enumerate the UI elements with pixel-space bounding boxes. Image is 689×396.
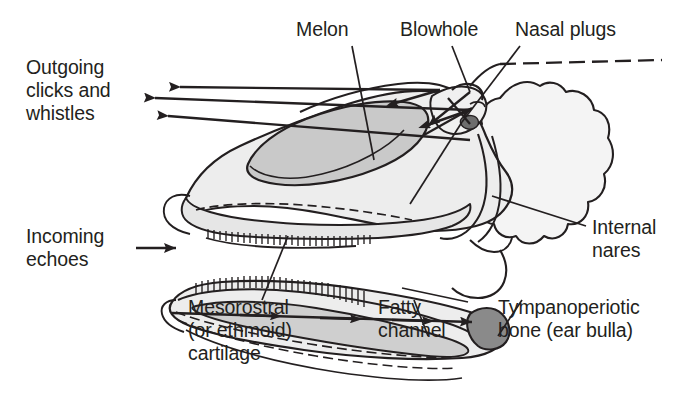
label-fatty-channel: Fatty channel: [378, 296, 446, 342]
throat-contour: [470, 238, 512, 252]
label-tympanoperiotic-bone: Tympanoperiotic bone (ear bulla): [498, 296, 640, 342]
label-incoming-echoes: Incoming echoes: [26, 225, 104, 271]
outgoing-arrow-1: [180, 87, 440, 90]
dolphin-echolocation-diagram: Outgoing clicks and whistles Incoming ec…: [0, 0, 689, 396]
label-melon: Melon: [296, 18, 349, 41]
label-mesorostral-cartilage: Mesorostral (or ethmoid) cartilage: [188, 296, 292, 365]
label-outgoing-clicks: Outgoing clicks and whistles: [26, 56, 111, 125]
head-top-to-body: [470, 64, 500, 86]
label-internal-nares: Internal nares: [592, 216, 656, 262]
label-nasal-plugs: Nasal plugs: [515, 18, 616, 41]
body-outline-dashed: [500, 60, 662, 64]
rear-lower-contour: [452, 250, 506, 298]
label-blowhole: Blowhole: [400, 18, 478, 41]
